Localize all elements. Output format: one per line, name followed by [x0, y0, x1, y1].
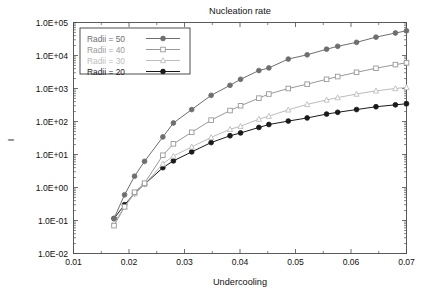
data-point-marker [228, 108, 233, 113]
data-point-marker [404, 101, 409, 106]
data-point-marker [324, 112, 329, 117]
data-point-marker [161, 47, 166, 52]
y-tick-label: 1.0E+00 [36, 183, 68, 193]
data-point-marker [161, 153, 166, 158]
data-point-marker [354, 40, 359, 45]
data-point-marker [305, 82, 310, 87]
y-tick-label: 1.0E+05 [36, 18, 68, 28]
x-tick-label: 0.03 [176, 257, 193, 267]
data-point-marker [238, 131, 243, 136]
x-tick-label: 0.07 [398, 257, 415, 267]
x-tick-label: 0.05 [287, 257, 304, 267]
y-tick-label: 1.0E+01 [36, 150, 68, 160]
legend-item-label: Radii = 40 [87, 45, 125, 55]
data-point-marker [393, 31, 398, 36]
data-point-marker [122, 205, 127, 210]
data-point-marker [171, 142, 176, 147]
y-tick-label: 1.0E-02 [38, 249, 68, 259]
data-point-marker [171, 121, 176, 126]
x-tick-label: 0.02 [121, 257, 138, 267]
x-tick-label: 0.04 [232, 257, 249, 267]
data-point-marker [209, 93, 214, 98]
y-tick-label: 1.0E+04 [36, 51, 68, 61]
data-point-marker [335, 110, 340, 115]
x-tick-label: 0.06 [343, 257, 360, 267]
data-point-marker [238, 77, 243, 82]
y-tick-label: 1.0E-01 [38, 216, 68, 226]
data-point-marker [228, 133, 233, 138]
data-point-marker [189, 149, 194, 154]
data-point-marker [132, 190, 137, 195]
data-point-marker [266, 66, 271, 71]
data-point-marker [132, 174, 137, 179]
y-tick-label: 1.0E+03 [36, 84, 68, 94]
data-point-marker [324, 77, 329, 82]
data-point-marker [142, 181, 147, 186]
data-point-marker [374, 35, 379, 40]
data-point-marker [266, 122, 271, 127]
data-point-marker [354, 107, 359, 112]
chart-canvas: Nucleation rate 1.0E-021.0E-011.0E+001.0… [0, 0, 428, 295]
data-point-marker [209, 140, 214, 145]
data-point-marker [393, 102, 398, 107]
data-point-marker [238, 103, 243, 108]
data-point-marker [112, 216, 117, 221]
data-point-marker [257, 96, 262, 101]
data-point-marker [354, 70, 359, 75]
data-point-marker [374, 104, 379, 109]
data-point-marker [305, 116, 310, 121]
data-point-marker [286, 86, 291, 91]
legend-item-label: Radii = 50 [87, 34, 125, 44]
data-point-marker [256, 125, 261, 130]
data-point-marker [161, 36, 166, 41]
data-point-marker [335, 44, 340, 49]
chart-legend[interactable]: Radii = 50Radii = 40Radii = 30Radii = 20 [80, 28, 190, 77]
data-point-marker [374, 66, 379, 71]
data-point-marker [393, 62, 398, 67]
data-point-marker [171, 158, 176, 163]
data-point-marker [209, 118, 214, 123]
legend-item-label: Radii = 30 [87, 56, 125, 66]
data-point-marker [286, 57, 291, 62]
data-point-marker [267, 92, 272, 97]
y-axis-label: I [6, 139, 16, 142]
data-point-marker [161, 69, 166, 74]
data-point-marker [286, 119, 291, 124]
data-point-marker [112, 223, 117, 228]
chart-title: Nucleation rate [209, 6, 271, 16]
legend-item-label: Radii = 20 [87, 67, 125, 77]
x-axis-label: Undercooling [213, 277, 267, 287]
data-point-marker [404, 28, 409, 33]
data-point-marker [404, 61, 409, 66]
nucleation-rate-chart-figure: Nucleation rate 1.0E-021.0E-011.0E+001.0… [0, 0, 428, 295]
data-point-marker [324, 47, 329, 52]
data-point-marker [189, 107, 194, 112]
data-point-marker [335, 74, 340, 79]
data-point-marker [305, 52, 310, 57]
x-tick-label: 0.01 [65, 257, 82, 267]
data-point-marker [228, 83, 233, 88]
data-point-marker [256, 68, 261, 73]
data-point-marker [160, 135, 165, 140]
data-point-marker [122, 192, 127, 197]
y-tick-label: 1.0E+02 [36, 117, 68, 127]
data-point-marker [142, 159, 147, 164]
data-point-marker [189, 130, 194, 135]
